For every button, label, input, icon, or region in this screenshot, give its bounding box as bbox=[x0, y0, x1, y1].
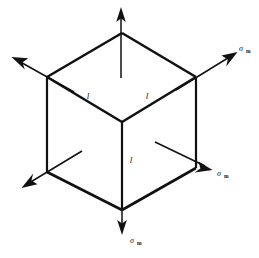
stress-arrow-down bbox=[117, 166, 127, 235]
edge-label-top-right: l bbox=[146, 91, 149, 101]
stress-arrow-lower-left-shaft bbox=[29, 151, 82, 183]
stress-arrow-upper-left bbox=[12, 57, 75, 92]
edge-label-top-left: l bbox=[87, 91, 90, 101]
stress-label-bottom-symbol: σ bbox=[130, 236, 135, 245]
stress-label-upper-right-subscript: m bbox=[246, 48, 251, 54]
cube-edge-top-left bbox=[47, 33, 122, 77]
stress-label-bottom: σ m bbox=[130, 236, 142, 246]
stress-arrow-lower-left bbox=[22, 151, 83, 188]
stress-arrow-lower-left-head bbox=[22, 173, 38, 188]
stress-label-bottom-subscript: m bbox=[137, 240, 142, 246]
stress-arrow-lower-right bbox=[155, 142, 213, 173]
stress-label-upper-right: σ m bbox=[239, 44, 251, 54]
stress-arrow-upper-right-shaft bbox=[176, 57, 230, 90]
stress-arrow-upper-right-head bbox=[222, 52, 238, 66]
stress-label-upper-right-symbol: σ bbox=[239, 44, 244, 53]
stress-arrow-upper-left-head bbox=[12, 57, 29, 69]
stress-arrow-lower-right-shaft bbox=[155, 142, 205, 166]
cube-edge-top-right bbox=[122, 33, 196, 77]
stress-label-lower-right-subscript: m bbox=[224, 173, 229, 179]
edge-label-front-vertical: l bbox=[130, 155, 133, 165]
stress-arrow-lower-right-head bbox=[195, 162, 213, 173]
figure-container: l l l σ m σ m σ m bbox=[0, 0, 259, 258]
cube-edge-bottom-left bbox=[47, 172, 122, 210]
cube-edge-bottom-right bbox=[122, 168, 196, 210]
cube-stress-diagram: l l l σ m σ m σ m bbox=[0, 0, 259, 258]
stress-arrow-up bbox=[116, 7, 126, 78]
stress-label-lower-right: σ m bbox=[217, 169, 229, 179]
stress-label-lower-right-symbol: σ bbox=[217, 169, 222, 178]
